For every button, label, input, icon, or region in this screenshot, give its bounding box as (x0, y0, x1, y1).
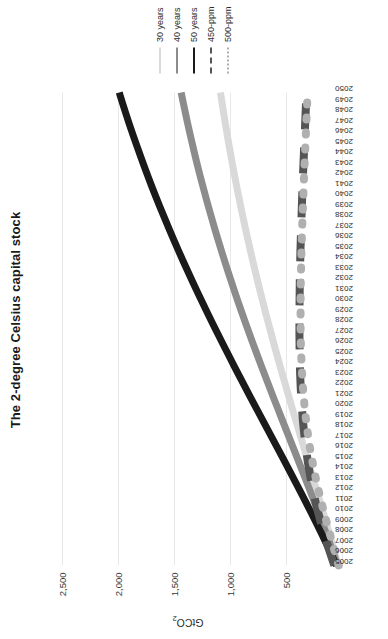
x-axis-tick-label: 2042 (335, 167, 353, 176)
x-axis-tick-label: 2015 (335, 451, 353, 460)
x-axis-tick-label: 2045 (335, 136, 353, 145)
legend-swatch (210, 47, 212, 73)
chart-figure: The 2-degree Celsius capital stock 5001,… (0, 0, 388, 639)
x-axis-tick-label: 2018 (335, 419, 353, 428)
x-axis-tick-label: 2038 (335, 209, 353, 218)
y-axis-tick-label: 1,500 (169, 572, 180, 596)
x-axis-tick-label: 2039 (335, 199, 353, 208)
x-axis-tick-label: 2050 (335, 83, 353, 92)
x-axis-tick-label: 2005 (335, 556, 353, 565)
x-axis-tick-label: 2020 (335, 398, 353, 407)
x-axis-tick-label: 2036 (335, 230, 353, 239)
series-curves (34, 92, 342, 565)
legend-swatch (159, 47, 161, 73)
legend-item[interactable]: 50 years (189, 6, 199, 73)
x-axis-tick-label: 2040 (335, 188, 353, 197)
y-axis-tick-label: 1,000 (225, 572, 236, 596)
y-axis-label: GtCO2 (172, 613, 203, 628)
legend-swatch (193, 47, 195, 73)
x-axis-tick-label: 2007 (335, 535, 353, 544)
x-axis-tick-label: 2024 (335, 356, 353, 365)
legend-swatch (176, 47, 178, 73)
chart-title: The 2-degree Celsius capital stock (8, 0, 23, 639)
legend-item[interactable]: 450-ppm (206, 6, 216, 73)
x-axis-tick-label: 2010 (335, 503, 353, 512)
x-axis-tick-label: 2035 (335, 241, 353, 250)
legend-label: 30 years (155, 7, 165, 42)
x-axis-tick-label: 2043 (335, 157, 353, 166)
x-axis-tick-label: 2011 (335, 493, 352, 502)
x-axis-tick-label: 2047 (335, 115, 353, 124)
legend-label: 500-ppm (223, 6, 233, 42)
x-axis-tick-label: 2008 (335, 524, 353, 533)
chart-legend: 30 years40 years50 years450-ppm500-ppm (155, 6, 233, 73)
x-axis-tick-label: 2048 (335, 104, 353, 113)
rotated-figure-container: The 2-degree Celsius capital stock 5001,… (0, 0, 388, 639)
x-axis-tick-label: 2013 (335, 472, 353, 481)
x-axis-tick-label: 2012 (335, 482, 353, 491)
legend-item[interactable]: 30 years (155, 6, 165, 73)
x-axis-tick-label: 2023 (335, 367, 353, 376)
series-line (181, 92, 337, 565)
y-axis-label-subscript: 2 (172, 613, 176, 622)
x-axis-tick-label: 2029 (335, 304, 353, 313)
x-axis-tick-label: 2034 (335, 251, 353, 260)
x-axis-tick-label: 2021 (335, 388, 353, 397)
x-axis-tick-label: 2022 (335, 377, 353, 386)
x-axis-tick-label: 2009 (335, 514, 353, 523)
x-axis-tick-label: 2006 (335, 546, 353, 555)
x-axis-tick-label: 2014 (335, 461, 353, 470)
legend-label: 40 years (172, 7, 182, 42)
x-axis-tick-label: 2030 (335, 293, 353, 302)
legend-label: 50 years (189, 7, 199, 42)
x-axis-tick-label: 2027 (335, 325, 353, 334)
x-axis-tick-label: 2026 (335, 335, 353, 344)
plot-area: 5001,0001,5002,0002,500 GtCO2 2005200620… (34, 92, 342, 565)
y-axis-tick-label: 500 (281, 572, 292, 588)
legend-item[interactable]: 40 years (172, 6, 182, 73)
x-axis-tick-label: 2032 (335, 272, 353, 281)
x-axis-tick-label: 2017 (335, 430, 353, 439)
x-axis-tick-label: 2033 (335, 262, 353, 271)
y-axis-tick-label: 2,500 (57, 572, 68, 596)
x-axis-tick-label: 2025 (335, 346, 353, 355)
x-axis-tick-label: 2028 (335, 314, 353, 323)
legend-label: 450-ppm (206, 6, 216, 42)
x-axis-tick-label: 2019 (335, 409, 353, 418)
y-axis-tick-label: 2,000 (113, 572, 124, 596)
series-line (301, 92, 339, 565)
y-axis-label-text: GtCO (177, 617, 204, 629)
x-axis-tick-label: 2031 (335, 283, 353, 292)
x-axis-tick-label: 2037 (335, 220, 353, 229)
legend-item[interactable]: 500-ppm (223, 6, 233, 73)
legend-swatch (227, 47, 229, 73)
x-axis-tick-label: 2016 (335, 440, 353, 449)
x-axis-tick-label: 2046 (335, 125, 353, 134)
x-axis-tick-label: 2044 (335, 146, 353, 155)
x-axis-tick-labels: 2005200620072008200920102011201220132014… (342, 92, 388, 565)
x-axis-tick-label: 2049 (335, 94, 353, 103)
x-axis-tick-label: 2041 (335, 178, 353, 187)
